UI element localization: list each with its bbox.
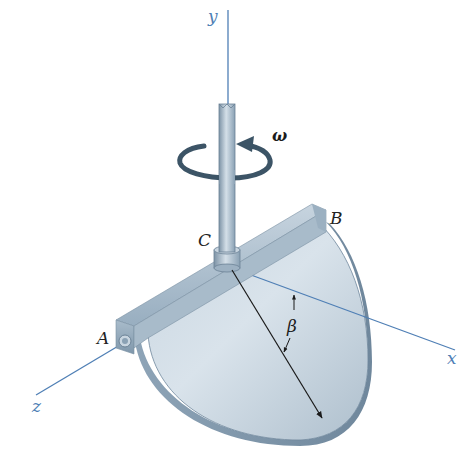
omega-label: ω xyxy=(272,128,287,144)
z-axis-line xyxy=(36,342,125,395)
beta-label: β xyxy=(287,318,297,335)
plate-rotation-diagram xyxy=(0,0,472,472)
point-c-label: C xyxy=(198,232,211,249)
point-a-label: A xyxy=(97,330,109,347)
z-axis-label: z xyxy=(32,398,41,415)
point-b-label: B xyxy=(330,210,343,227)
x-axis-label: x xyxy=(447,350,457,367)
y-axis-label: y xyxy=(208,8,218,25)
